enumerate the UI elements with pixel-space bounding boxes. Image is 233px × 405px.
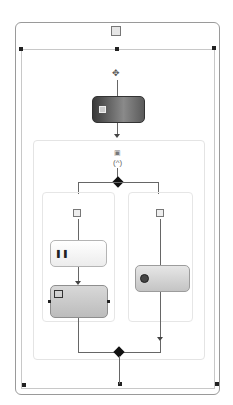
to-resume-activity[interactable] bbox=[50, 285, 108, 318]
if-else-label: ▣ bbox=[33, 147, 205, 157]
resize-handle[interactable] bbox=[19, 47, 23, 51]
state-title bbox=[15, 26, 220, 37]
connector bbox=[78, 182, 158, 183]
state-icon bbox=[111, 26, 121, 36]
connector bbox=[160, 292, 161, 338]
resize-handle[interactable] bbox=[22, 383, 26, 387]
connector bbox=[119, 356, 120, 384]
terminate-icon bbox=[140, 274, 149, 283]
branch-icon bbox=[73, 209, 81, 217]
set-state-icon bbox=[54, 290, 63, 298]
connection-point[interactable] bbox=[107, 300, 110, 303]
condition-icon: (^) bbox=[113, 158, 122, 167]
branch-icon bbox=[156, 209, 164, 217]
delay-icon bbox=[99, 106, 106, 113]
connector bbox=[160, 340, 161, 352]
arrow-icon bbox=[114, 134, 120, 138]
resize-handle[interactable] bbox=[115, 47, 119, 51]
suspend-error-activity[interactable]: ❚❚ bbox=[50, 240, 107, 267]
resize-handle[interactable] bbox=[215, 382, 219, 386]
delay-activity[interactable] bbox=[92, 96, 145, 123]
connector bbox=[117, 80, 118, 96]
connection-point[interactable] bbox=[48, 300, 51, 303]
connector bbox=[78, 267, 79, 282]
event-activity-icon: ✥ bbox=[112, 68, 120, 78]
connector bbox=[78, 219, 79, 240]
if-else-icon: ▣ bbox=[114, 149, 121, 156]
connector bbox=[78, 318, 79, 352]
terminate-error-activity[interactable] bbox=[135, 265, 190, 292]
suspend-icon: ❚❚ bbox=[55, 249, 69, 259]
resize-handle[interactable] bbox=[212, 46, 216, 50]
connector bbox=[160, 219, 161, 265]
